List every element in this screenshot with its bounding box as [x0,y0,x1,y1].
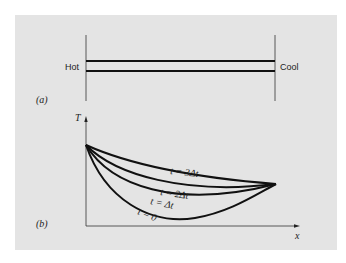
curve-label-0: t = 0 [136,206,158,224]
heat-rod-diagram: Hot Cool (a) T x (b) t = 3Δt t = 2Δt t =… [0,0,346,263]
panel-b: T x (b) t = 3Δt t = 2Δt t = Δt t = 0 [36,112,300,241]
panel-a: Hot Cool (a) [36,35,299,106]
curve-label-3dt: t = 3Δt [170,165,199,179]
x-axis-label: x [294,230,300,241]
cool-label: Cool [280,62,299,72]
t-axis-arrow-icon [84,116,87,122]
x-axis-arrow-icon [294,224,300,227]
t-axis-label: T [75,112,82,123]
panel-b-label: (b) [36,218,48,230]
panel-a-label: (a) [36,94,48,106]
hot-label: Hot [65,62,80,72]
